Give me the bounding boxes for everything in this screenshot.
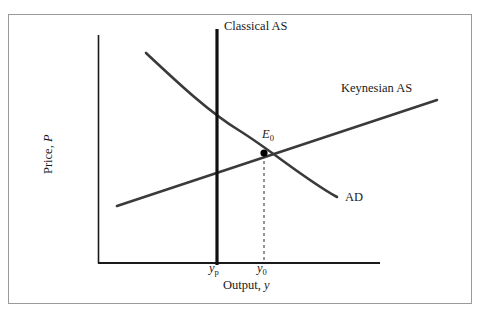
- y0-symbol: y: [257, 261, 263, 275]
- equilibrium-subscript: 0: [270, 133, 274, 143]
- y-axis-title: Price, P: [42, 94, 55, 214]
- y0-subscript: 0: [263, 267, 267, 277]
- ad-label: AD: [345, 191, 363, 204]
- keynesian-as-curve: [117, 100, 437, 206]
- equilibrium-label: E0: [262, 128, 274, 141]
- figure-container: Classical AS Keynesian AS AD E0 yp y0 Ou…: [0, 0, 499, 318]
- x-axis-title: Output, y: [223, 279, 270, 292]
- y-axis-title-symbol: P: [41, 134, 55, 142]
- x-axis-title-prefix: Output,: [223, 278, 264, 292]
- yp-subscript: p: [215, 267, 219, 277]
- yp-symbol: y: [209, 261, 215, 275]
- classical-as-label: Classical AS: [224, 20, 288, 33]
- plot-canvas: [0, 0, 499, 318]
- x-axis-title-symbol: y: [264, 278, 270, 292]
- keynesian-as-label: Keynesian AS: [341, 82, 412, 95]
- ad-curve: [146, 53, 337, 197]
- equilibrium-symbol: E: [262, 127, 270, 141]
- equilibrium-point-marker: [260, 149, 267, 156]
- tick-label-y0: y0: [257, 262, 267, 275]
- y-axis-title-prefix: Price,: [41, 142, 55, 174]
- tick-label-yp: yp: [209, 262, 219, 275]
